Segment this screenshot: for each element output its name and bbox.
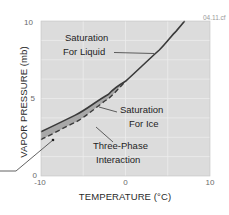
liquid-label-line1: Saturation bbox=[65, 32, 108, 43]
ice-label-line1: Saturation bbox=[120, 104, 163, 115]
x-tick-0: 0 bbox=[123, 178, 128, 187]
figure-id: 04.11.cf bbox=[203, 14, 226, 21]
y-axis-title: VAPOR PRESSURE (mb) bbox=[18, 46, 29, 158]
three-phase-label-line1: Three-Phase bbox=[93, 140, 148, 151]
three-phase-label-line2: Interaction bbox=[96, 154, 140, 165]
ice-label-line2: For Ice bbox=[129, 118, 159, 129]
y-tick-10: 10 bbox=[24, 18, 33, 27]
y-tick-5: 5 bbox=[31, 94, 36, 103]
vapor-pressure-chart: Saturation For Liquid Saturation For Ice… bbox=[0, 0, 229, 215]
x-axis-title: TEMPERATURE (°C) bbox=[79, 191, 171, 202]
liquid-label-line2: For Liquid bbox=[63, 46, 105, 57]
x-tick-10: 10 bbox=[206, 178, 215, 187]
external-leader-dot bbox=[52, 139, 55, 142]
x-tick-neg10: -10 bbox=[34, 178, 46, 187]
